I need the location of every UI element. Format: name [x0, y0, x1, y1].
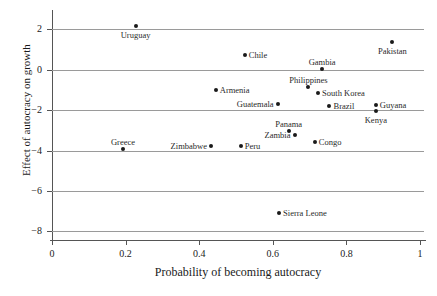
data-point-label: Sierra Leone [283, 209, 327, 218]
data-point-label: South Korea [322, 89, 365, 98]
data-point-label: Pakistan [378, 47, 407, 56]
gridline [52, 29, 424, 30]
data-point-label: Guyana [380, 101, 406, 110]
data-point-label: Zimbabwe [171, 142, 207, 151]
x-axis-title: Probability of becoming autocracy [52, 266, 424, 279]
y-tick-label: −8 [8, 226, 42, 236]
data-point-label: Philippines [289, 76, 327, 85]
data-point[interactable] [316, 91, 320, 95]
x-tick-label: 0.4 [182, 248, 216, 259]
y-axis-title: Effect of autocracy on growth [20, 10, 32, 210]
x-tick-label: 0.8 [329, 248, 363, 259]
x-tick-label: 1 [403, 248, 437, 259]
data-point[interactable] [239, 144, 243, 148]
x-tick-mark [52, 240, 53, 245]
data-point[interactable] [374, 103, 378, 107]
x-tick-label: 0 [35, 248, 69, 259]
data-point[interactable] [277, 211, 281, 215]
data-point-label: Guatemala [237, 100, 274, 109]
data-point-label: Peru [245, 142, 261, 151]
scatter-plot-figure: 20−2−4−6−8 00.20.40.60.81 UruguayPakista… [0, 0, 437, 296]
data-point-label: Congo [319, 138, 342, 147]
data-point-label: Armenia [220, 86, 250, 95]
x-tick-label: 0.2 [109, 248, 143, 259]
gridline [52, 191, 424, 192]
data-point[interactable] [313, 140, 317, 144]
gridline [52, 70, 424, 71]
data-point[interactable] [374, 109, 378, 113]
data-point-label: Brazil [333, 102, 354, 111]
x-tick-mark [420, 240, 421, 245]
data-point[interactable] [390, 40, 394, 44]
x-tick-mark [273, 240, 274, 245]
data-point-label: Panama [275, 120, 302, 129]
gridline [52, 110, 424, 111]
data-point[interactable] [293, 133, 297, 137]
gridline [52, 151, 424, 152]
x-tick-mark [126, 240, 127, 245]
data-point-label: Uruguay [121, 31, 151, 40]
data-point-label: Zambia [265, 131, 291, 140]
data-point[interactable] [327, 104, 331, 108]
x-axis-line [50, 240, 426, 241]
data-point[interactable] [276, 102, 280, 106]
data-point[interactable] [209, 144, 213, 148]
x-tick-mark [199, 240, 200, 245]
data-point-label: Kenya [365, 116, 387, 125]
data-point[interactable] [134, 24, 138, 28]
data-point-label: Chile [249, 51, 267, 60]
data-point[interactable] [214, 88, 218, 92]
data-point-label: Gambia [309, 58, 336, 67]
data-point-label: Greece [111, 138, 135, 147]
data-point[interactable] [243, 53, 247, 57]
gridline [52, 231, 424, 232]
data-point[interactable] [306, 85, 310, 89]
x-tick-label: 0.6 [256, 248, 290, 259]
x-tick-mark [346, 240, 347, 245]
plot-area: UruguayPakistanChileGambiaPhilippinesArm… [52, 12, 424, 240]
